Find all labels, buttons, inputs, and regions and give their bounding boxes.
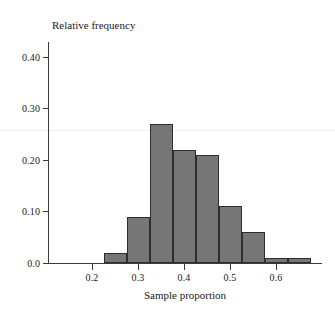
x-axis-title: Sample proportion [48,289,322,301]
histogram-bar [288,258,311,263]
y-tick-mark [43,160,49,161]
x-tick-mark [276,264,277,270]
y-axis-line [48,42,49,264]
y-tick-mark [43,263,49,264]
histogram-bar [104,253,127,263]
x-tick-label: 0.5 [210,273,250,283]
x-axis-line [48,263,322,264]
histogram-bar [196,155,219,263]
histogram-bar [127,217,150,263]
x-tick-label: 0.2 [72,273,112,283]
histogram-bar [265,258,288,263]
y-tick-label: 0.10 [0,207,40,217]
x-tick-label: 0.3 [118,273,158,283]
histogram-bar [173,150,196,263]
histogram-bar [219,206,242,263]
y-tick-label: 0.30 [0,104,40,114]
histogram-figure: Relative frequency 0.0 0.10 0.20 0.30 0.… [0,0,335,317]
y-tick-mark [43,211,49,212]
histogram-bar [242,232,265,263]
plot-area: Relative frequency 0.0 0.10 0.20 0.30 0.… [0,0,335,317]
y-tick-label: 0.40 [0,53,40,63]
y-tick-label: 0.20 [0,156,40,166]
y-axis-title: Relative frequency [52,19,135,31]
y-tick-mark [43,108,49,109]
y-tick-mark [43,57,49,58]
y-tick-label: 0.0 [0,259,40,269]
x-tick-label: 0.4 [164,273,204,283]
x-tick-label: 0.6 [256,273,296,283]
x-tick-mark [184,264,185,270]
x-tick-mark [230,264,231,270]
histogram-bar [150,124,173,263]
x-tick-mark [92,264,93,270]
x-tick-mark [138,264,139,270]
